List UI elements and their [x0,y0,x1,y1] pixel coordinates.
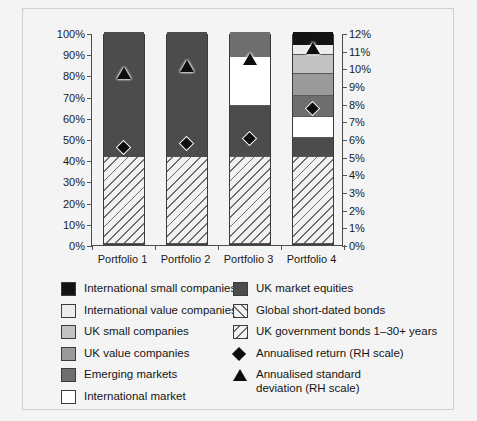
bar-segment [293,138,333,157]
right-axis-tick: 11% [349,47,370,57]
right-axis-tick: 12% [349,29,371,39]
category-label: Portfolio 1 [91,253,155,265]
legend-swatch-intl-small [61,282,76,296]
legend-item-label: UK market equities [256,281,353,295]
right-axis-tick: 7% [349,117,365,127]
legend-column-right: UK market equitiesGlobal short-dated bon… [233,281,453,402]
legend-column-left: International small companiesInternation… [61,281,251,410]
bar-segment [104,157,144,244]
plot-area-wrapper: 0%10%20%30%40%50%60%70%80%90%100% 0%1%2%… [23,9,453,271]
legend-swatch-uk-small [61,325,76,339]
legend-diamond-icon [233,347,248,361]
bar-segment [293,55,333,74]
bar-segment [230,57,270,106]
legend-item[interactable]: International value companies [61,303,251,320]
right-axis-tick: 6% [349,135,365,145]
legend-item[interactable]: Global short-dated bonds [233,303,453,320]
legend-item[interactable]: Annualised standard deviation (RH scale) [233,367,453,397]
right-axis-tickmark [342,105,347,106]
annualised-std-dev-marker [117,67,131,79]
right-axis-tickmark [342,158,347,159]
legend-swatch-intl-market [61,390,76,404]
legend-swatch-global-short [233,304,248,318]
category-tickmark [92,245,93,250]
legend-swatch-intl-value [61,304,76,318]
left-axis-tick: 90% [63,50,85,60]
left-axis-tickmark [87,182,92,183]
left-axis-tick: 80% [63,71,85,81]
right-axis-tick: 5% [349,153,365,163]
legend-item-label: International value companies [84,303,237,317]
right-axis-tick: 10% [349,64,371,74]
category-label: Portfolio 4 [280,253,344,265]
legend-item-label: UK value companies [84,346,189,360]
legend-item[interactable]: UK small companies [61,324,251,341]
legend-item-label: International small companies [84,281,236,295]
left-axis-tickmark [87,55,92,56]
left-axis-tick: 10% [63,220,85,230]
right-axis-tick: 0% [349,241,365,251]
bar-segment [104,32,144,157]
legend-swatch-uk-mkt-eq [233,282,248,296]
right-axis-tick: 3% [349,188,365,198]
bar-segment [293,117,333,138]
bar-segment [293,157,333,244]
legend-item[interactable]: UK value companies [61,346,251,363]
legend-swatch-emerging [61,368,76,382]
right-axis-tick: 1% [349,223,365,233]
legend-item[interactable]: International small companies [61,281,251,298]
left-axis-tickmark [87,204,92,205]
legend-item[interactable]: Emerging markets [61,367,251,384]
right-axis-tickmark [342,122,347,123]
right-axis-tickmark [342,69,347,70]
annualised-std-dev-marker [306,42,320,54]
left-axis-tick: 30% [63,177,85,187]
plot-area [91,34,343,246]
right-axis-tick: 2% [349,206,365,216]
left-axis-tick: 100% [57,29,85,39]
bar-segment [230,157,270,244]
left-axis-tickmark [87,119,92,120]
category-tickmark [281,245,282,250]
chart-legend: International small companiesInternation… [23,281,453,407]
left-axis-tick: 50% [63,135,85,145]
bar-segment [293,74,333,95]
legend-item-label: International market [84,389,186,403]
category-label: Portfolio 2 [154,253,218,265]
right-axis-tickmark [342,228,347,229]
legend-item-label: Annualised standard deviation (RH scale) [256,367,361,395]
chart-frame: 0%10%20%30%40%50%60%70%80%90%100% 0%1%2%… [22,8,454,410]
category-tickmark [344,245,345,250]
left-axis-tickmark [87,225,92,226]
category-tickmark [218,245,219,250]
legend-item-label: Annualised return (RH scale) [256,346,404,360]
left-axis-tick: 20% [63,199,85,209]
annualised-std-dev-marker [243,53,257,65]
right-axis-tick-labels: 0%1%2%3%4%5%6%7%8%9%10%11%12% [341,9,387,271]
legend-item[interactable]: International market [61,389,251,406]
legend-swatch-uk-value [61,347,76,361]
legend-item[interactable]: UK market equities [233,281,453,298]
legend-item[interactable]: Annualised return (RH scale) [233,346,453,363]
category-axis-labels: Portfolio 1Portfolio 2Portfolio 3Portfol… [91,253,343,269]
left-axis-tickmark [87,76,92,77]
right-axis-tickmark [342,87,347,88]
right-axis-tickmark [342,52,347,53]
legend-swatch-uk-govt [233,325,248,339]
left-axis-tick-labels: 0%10%20%30%40%50%60%70%80%90%100% [39,9,85,271]
legend-item-label: Emerging markets [84,367,177,381]
left-axis-tickmark [87,98,92,99]
left-axis-tick: 0% [69,241,85,251]
legend-item[interactable]: UK government bonds 1–30+ years [233,324,453,341]
left-axis-tickmark [87,161,92,162]
right-axis-tickmark [342,140,347,141]
legend-item-label: UK government bonds 1–30+ years [256,324,437,338]
legend-item-label: Global short-dated bonds [256,303,385,317]
legend-item-label: UK small companies [84,324,189,338]
left-axis-tickmark [87,34,92,35]
right-axis-tick: 4% [349,170,365,180]
stacked-bar[interactable] [292,34,334,245]
category-label: Portfolio 3 [217,253,281,265]
annualised-std-dev-marker [180,60,194,72]
right-axis-tickmark [342,34,347,35]
